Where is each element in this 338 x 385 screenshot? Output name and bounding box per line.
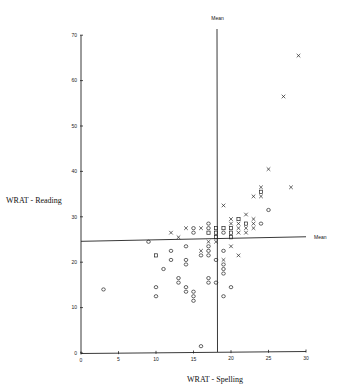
circle-marker [192, 231, 196, 234]
cross-marker [207, 240, 211, 244]
cross-marker [237, 231, 241, 235]
circle-marker [207, 222, 211, 225]
circle-marker [207, 249, 211, 252]
cross-marker [177, 235, 181, 239]
circle-marker [199, 345, 203, 348]
cross-marker [267, 167, 271, 171]
circle-marker [184, 263, 188, 266]
cross-marker [289, 185, 293, 189]
mean-reference-lines: MeanMean [81, 15, 327, 352]
cross-marker [199, 226, 203, 230]
square-marker [259, 190, 262, 193]
circle-marker [207, 281, 211, 284]
x-axis-title: WRAT - Spelling [187, 375, 243, 384]
cross-marker [252, 217, 256, 221]
circle-marker [147, 240, 151, 243]
circle-marker [192, 295, 196, 298]
circle-marker [177, 281, 181, 284]
cross-marker [222, 258, 226, 262]
x-tick-label: 15 [191, 356, 197, 362]
cross-marker [237, 226, 241, 230]
cross-marker [169, 231, 173, 235]
circle-marker [222, 267, 226, 270]
square-marker [222, 227, 225, 230]
cross-marker [252, 226, 256, 230]
circle-marker [184, 286, 188, 289]
circle-marker [207, 276, 211, 279]
circle-marker [229, 286, 233, 289]
circle-marker [222, 231, 226, 234]
axes: 010203040506070051015202530 [71, 32, 309, 363]
cross-marker [222, 204, 226, 208]
cross-marker [252, 222, 256, 226]
x-tick-label: 5 [117, 356, 120, 362]
circle-marker [259, 222, 263, 225]
circle-marker [199, 254, 203, 257]
square-marker [154, 254, 157, 257]
circle-marker [222, 272, 226, 275]
x-tick-label: 25 [266, 355, 272, 361]
circle-marker [154, 286, 158, 289]
y-tick-label: 20 [71, 259, 77, 265]
data-points [102, 54, 301, 348]
cross-marker [237, 254, 241, 258]
cross-marker [237, 222, 241, 226]
x-tick-label: 0 [80, 357, 83, 363]
circle-marker [162, 267, 166, 270]
cross-marker [252, 195, 256, 199]
cross-marker [244, 213, 248, 217]
y-tick-label: 30 [71, 214, 77, 220]
circle-marker [192, 299, 196, 302]
y-tick-label: 10 [71, 304, 77, 310]
circle-marker [192, 227, 196, 230]
x-tick-label: 30 [303, 355, 309, 361]
circle-marker [192, 290, 196, 293]
cross-marker [229, 245, 233, 249]
cross-marker [282, 95, 286, 99]
cross-marker [184, 226, 188, 230]
circle-marker [222, 263, 226, 266]
cross-marker [244, 231, 248, 235]
circle-marker [222, 249, 226, 252]
vertical-mean-label: Mean [211, 15, 224, 21]
circle-marker [169, 249, 173, 252]
cross-marker [229, 217, 233, 221]
cross-marker [199, 249, 203, 253]
circle-marker [169, 258, 173, 261]
square-marker [244, 222, 247, 225]
y-tick-label: 0 [74, 350, 77, 356]
circle-marker [184, 258, 188, 261]
circle-marker [184, 245, 188, 248]
square-marker [207, 231, 210, 234]
square-marker [229, 227, 232, 230]
y-tick-label: 60 [71, 77, 77, 83]
circle-marker [154, 295, 158, 298]
x-tick-label: 20 [228, 355, 234, 361]
circle-marker [267, 208, 271, 211]
y-tick-label: 70 [71, 32, 77, 38]
cross-marker [297, 54, 301, 58]
horizontal-mean-label: Mean [314, 234, 327, 240]
circle-marker [222, 295, 226, 298]
circle-marker [102, 288, 106, 291]
square-marker [229, 231, 232, 234]
cross-marker [259, 195, 263, 199]
y-tick-label: 50 [71, 123, 77, 129]
y-tick-label: 40 [71, 168, 77, 174]
cross-marker [229, 222, 233, 226]
circle-marker [207, 254, 211, 257]
cross-marker [244, 226, 248, 230]
x-tick-label: 10 [153, 356, 159, 362]
circle-marker [207, 227, 211, 230]
scatter-chart: 010203040506070051015202530 MeanMean WRA… [0, 0, 338, 385]
circle-marker [184, 290, 188, 293]
square-marker [237, 217, 240, 220]
y-axis-title: WRAT - Reading [6, 196, 62, 205]
circle-marker [177, 276, 181, 279]
cross-marker [259, 185, 263, 189]
circle-marker [207, 245, 211, 248]
